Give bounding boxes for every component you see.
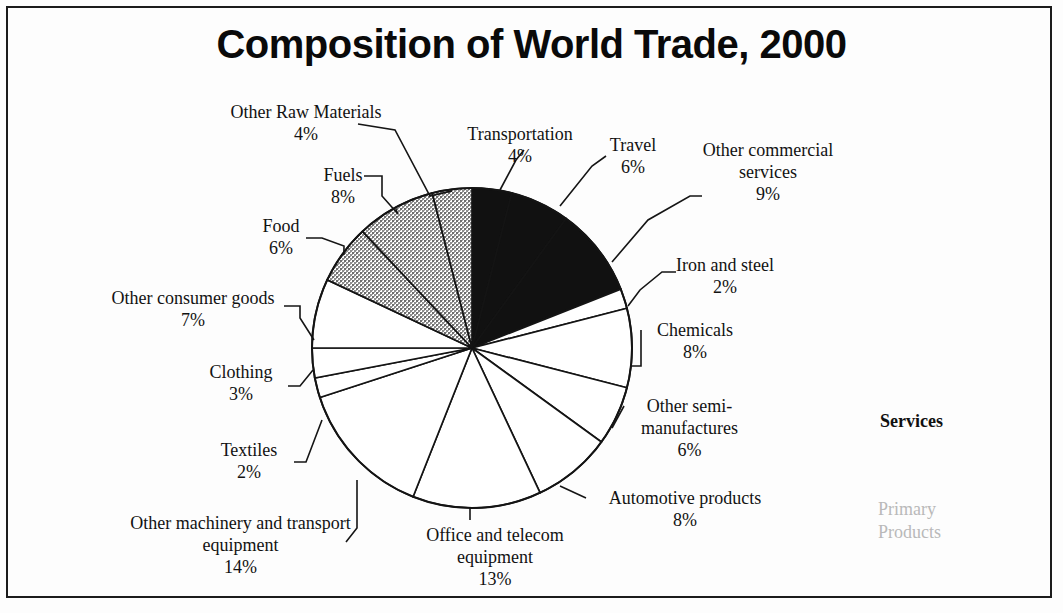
label-automotive: Automotive products 8% (580, 488, 790, 532)
label-other-consumer-goods-name: Other consumer goods (112, 288, 275, 308)
label-transportation-name: Transportation (467, 124, 572, 144)
label-clothing-pct: 3% (186, 384, 296, 406)
label-clothing-name: Clothing (209, 362, 272, 382)
label-clothing: Clothing 3% (186, 362, 296, 406)
label-chemicals: Chemicals 8% (640, 320, 750, 364)
label-other-semi: Other semi-manufactures 6% (622, 396, 757, 462)
label-transportation: Transportation 4% (440, 124, 600, 168)
chart-page: Composition of World Trade, 2000 Other R… (0, 0, 1063, 613)
label-fuels-name: Fuels (323, 165, 362, 185)
label-chemicals-name: Chemicals (657, 320, 733, 340)
label-textiles: Textiles 2% (194, 440, 304, 484)
label-fuels: Fuels 8% (298, 165, 388, 209)
label-iron-and-steel: Iron and steel 2% (650, 255, 800, 299)
label-other-commercial-services-pct: 9% (678, 184, 858, 206)
label-food-name: Food (262, 216, 299, 236)
legend-primary-products: Primary Products (878, 498, 941, 543)
label-other-consumer-goods: Other consumer goods 7% (78, 288, 308, 332)
label-chemicals-pct: 8% (640, 342, 750, 364)
legend-primary-products-line2: Products (878, 521, 941, 544)
label-travel-pct: 6% (588, 157, 678, 179)
label-other-machinery-pct: 14% (128, 557, 353, 579)
label-office-telecom: Office and telecom equipment 13% (400, 525, 590, 591)
legend-services: Services (880, 410, 943, 433)
label-travel-name: Travel (610, 135, 656, 155)
label-iron-and-steel-pct: 2% (650, 277, 800, 299)
label-fuels-pct: 8% (298, 187, 388, 209)
label-other-consumer-goods-pct: 7% (78, 310, 308, 332)
label-other-commercial-services-name: Other commercial services (703, 140, 833, 182)
label-food-pct: 6% (236, 238, 326, 260)
label-automotive-name: Automotive products (609, 488, 761, 508)
label-textiles-name: Textiles (221, 440, 278, 460)
label-other-semi-pct: 6% (622, 440, 757, 462)
label-textiles-pct: 2% (194, 462, 304, 484)
legend-primary-products-line1: Primary (878, 498, 941, 521)
label-iron-and-steel-name: Iron and steel (676, 255, 774, 275)
label-transportation-pct: 4% (440, 146, 600, 168)
label-other-machinery-name: Other machinery and transport equipment (130, 513, 350, 555)
leader-line (612, 196, 702, 262)
label-automotive-pct: 8% (580, 510, 790, 532)
label-other-semi-name: Other semi-manufactures (641, 396, 738, 438)
label-other-raw-materials: Other Raw Materials 4% (186, 102, 426, 146)
pie-slices (312, 188, 632, 508)
label-other-raw-materials-pct: 4% (186, 124, 426, 146)
label-other-machinery: Other machinery and transport equipment … (128, 513, 353, 579)
label-travel: Travel 6% (588, 135, 678, 179)
label-other-raw-materials-name: Other Raw Materials (231, 102, 382, 122)
label-food: Food 6% (236, 216, 326, 260)
label-office-telecom-pct: 13% (400, 569, 590, 591)
label-other-commercial-services: Other commercial services 9% (678, 140, 858, 206)
label-office-telecom-name: Office and telecom equipment (426, 525, 564, 567)
